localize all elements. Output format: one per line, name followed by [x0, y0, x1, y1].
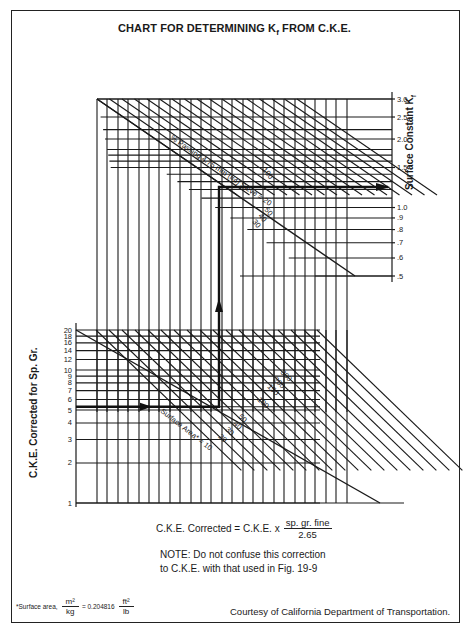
svg-text:.6: .6 [397, 253, 403, 262]
svg-text:3: 3 [68, 435, 72, 444]
svg-text:5: 5 [68, 406, 72, 415]
nomograph: 3.02.52.01.51.0.9.8.7.6.5201816141210987… [0, 0, 469, 637]
note-line-1: NOTE: Do not confuse this correction [160, 548, 326, 562]
svg-text:2: 2 [68, 458, 72, 467]
upper-grid [97, 99, 437, 412]
svg-text:Surface Area* = 10: Surface Area* = 10 [159, 406, 214, 452]
surface-area-footnote: *Surface area, m²kg = 0.204816 ft²lb [16, 597, 134, 616]
svg-text:6: 6 [68, 395, 72, 404]
formula-numerator: sp. gr. fine [284, 517, 332, 529]
formula-lhs: C.K.E. Corrected = C.K.E. x [156, 523, 280, 534]
lower-grid [76, 330, 462, 503]
svg-text:12: 12 [64, 355, 72, 364]
svg-text:7: 7 [68, 386, 72, 395]
svg-text:4: 4 [68, 418, 72, 427]
svg-text:.7: .7 [397, 238, 403, 247]
credit-line: Courtesy of California Department of Tra… [230, 606, 450, 617]
right-axis-label: Surface Constant Kf [404, 95, 417, 190]
formula-fraction: sp. gr. fine 2.65 [284, 517, 332, 540]
formula-denominator: 2.65 [298, 529, 317, 540]
svg-text:.8: .8 [397, 225, 403, 234]
correction-formula: C.K.E. Corrected = C.K.E. x sp. gr. fine… [156, 517, 332, 540]
note: NOTE: Do not confuse this correction to … [160, 548, 326, 576]
svg-text:1.0: 1.0 [397, 203, 407, 212]
left-axis-label: C.K.E. Corrected for Sp. Gr. [28, 347, 39, 478]
svg-text:1: 1 [68, 499, 72, 508]
svg-text:% Passing 4.75 mm (#4) Sieve =: % Passing 4.75 mm (#4) Sieve = 20 [169, 133, 273, 207]
svg-text:.9: .9 [397, 213, 403, 222]
note-line-2: to C.K.E. with that used in Fig. 19-9 [160, 562, 326, 576]
svg-text:.5: .5 [397, 272, 403, 281]
svg-text:14: 14 [64, 346, 72, 355]
